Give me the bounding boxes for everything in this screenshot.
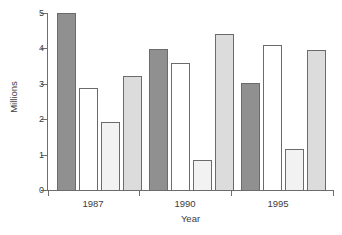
bar-1990-series-4 xyxy=(215,34,234,191)
x-axis-title: Year xyxy=(47,214,334,224)
y-tick-label-1: 1 xyxy=(4,151,44,160)
x-tick-mark-right xyxy=(333,191,334,196)
x-tick-label-1987: 1987 xyxy=(63,198,123,209)
bar-1990-series-2 xyxy=(171,63,190,191)
y-axis-title: Millions xyxy=(9,67,19,127)
x-tick-mark-sep-2 xyxy=(231,191,232,196)
bar-1987-series-1 xyxy=(57,13,76,191)
bar-1995-series-3 xyxy=(285,149,304,191)
bar-1995-series-2 xyxy=(263,45,282,191)
y-tick-label-4: 4 xyxy=(4,44,44,53)
x-tick-mark-left xyxy=(48,191,49,196)
bar-1987-series-2 xyxy=(79,88,98,191)
x-tick-label-1995: 1995 xyxy=(248,198,308,209)
x-tick-label-1990: 1990 xyxy=(155,198,215,209)
bar-1987-series-3 xyxy=(101,122,120,191)
bars-layer xyxy=(48,13,334,191)
y-tick-label-0: 0 xyxy=(4,186,44,195)
bar-1990-series-1 xyxy=(149,49,168,191)
x-tick-mark-sep-1 xyxy=(139,191,140,196)
y-tick-label-5: 5 xyxy=(4,9,44,18)
bar-chart: 5 4 3 2 1 0 Millions 1987 1990 1995 Year xyxy=(0,0,342,235)
bar-1995-series-4 xyxy=(307,50,326,191)
bar-1990-series-3 xyxy=(193,160,212,191)
bar-1987-series-4 xyxy=(123,76,142,191)
bar-1995-series-1 xyxy=(241,83,260,191)
